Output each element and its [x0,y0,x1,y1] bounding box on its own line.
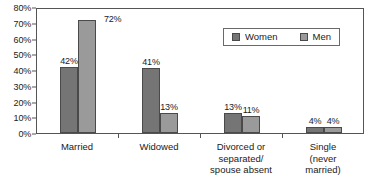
bar-men-1 [160,113,178,133]
bar-value-label: 11% [243,105,260,115]
bar-value-label: 4% [309,116,322,126]
bar-women-0 [60,67,78,133]
y-axis: 0%10%20%30%40%50%60%70%80% [0,8,36,134]
x-axis-category-label: Married [36,141,118,153]
bar-value-label: 13% [224,102,241,112]
bar-group: 41%13% [119,9,201,133]
bar-women-3 [306,127,324,133]
bar-group: 42%72% [37,9,119,133]
legend-label: Women [245,32,278,42]
plot-area: 42%72%41%13%13%11%4%4% WomenMen [36,8,364,134]
legend-entry-women: Women [232,32,278,42]
bar-men-0 [78,20,96,133]
chart-legend: WomenMen [223,28,340,46]
bar-value-label: 41% [142,57,159,67]
bar-women-2 [224,113,242,133]
bar-men-2 [242,116,260,133]
bar-women-1 [142,68,160,133]
legend-entry-men: Men [300,32,331,42]
x-axis-separator-tick [118,134,119,138]
x-axis-separator-tick [200,134,201,138]
y-axis-tick-label: 0% [18,130,31,139]
y-axis-tick-label: 20% [14,98,31,107]
x-axis-category-label: Divorced or separated/ spouse absent [200,141,282,176]
x-axis-separator-tick [282,134,283,138]
y-axis-tick-label: 80% [14,4,31,13]
y-axis-tick-label: 40% [14,67,31,76]
bar-value-label: 4% [327,116,340,126]
bar-value-label: 42% [60,56,77,66]
bar-men-3 [324,127,342,133]
y-axis-tick-label: 70% [14,19,31,28]
x-axis-category-label: Single (never married) [282,141,364,176]
y-axis-tick-label: 10% [14,114,31,123]
y-axis-tick-label: 50% [14,51,31,60]
legend-swatch-icon [300,33,308,41]
y-axis-tick-label: 30% [14,82,31,91]
x-axis-category-label: Widowed [118,141,200,153]
bar-chart: 0%10%20%30%40%50%60%70%80% 42%72%41%13%1… [0,0,377,192]
y-axis-tick-label: 60% [14,35,31,44]
legend-label: Men [313,32,331,42]
bar-value-label: 13% [160,102,177,112]
legend-swatch-icon [232,33,240,41]
x-axis: MarriedWidowedDivorced or separated/ spo… [36,134,364,192]
